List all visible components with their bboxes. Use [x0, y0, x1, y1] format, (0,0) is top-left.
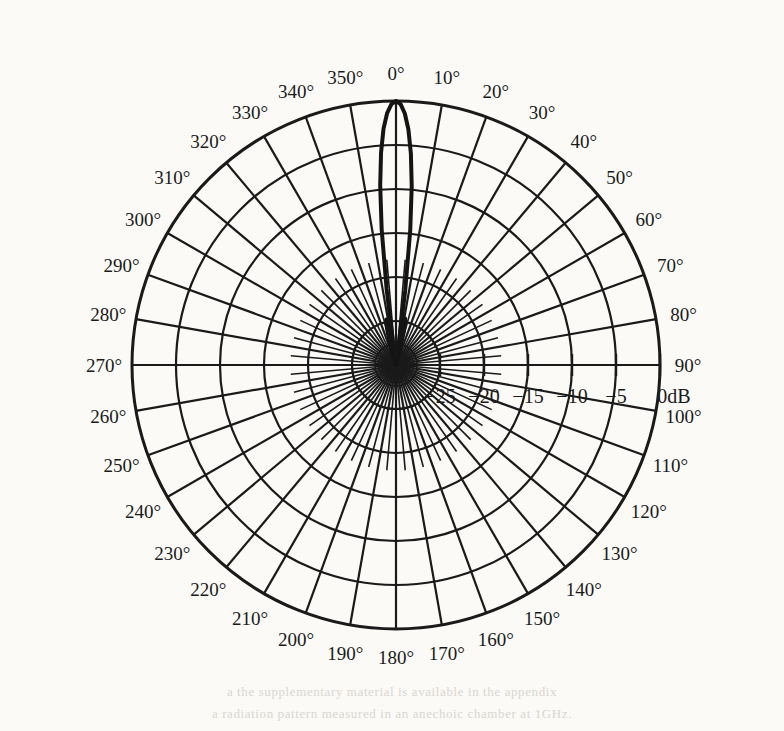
angle-tick-label-100: 100° [666, 406, 702, 425]
angle-tick-label-0: 0° [387, 64, 404, 83]
angle-tick-label-280: 280° [90, 305, 126, 324]
polar-chart-figure: 0°10°20°30°40°50°60°70°80°90°100°110°120… [0, 0, 784, 731]
angle-tick-label-160: 160° [478, 630, 514, 649]
angle-tick-label-260: 260° [90, 406, 126, 425]
angle-tick-label-220: 220° [190, 579, 226, 598]
radial-db-label--25: −25 [424, 386, 455, 406]
angle-tick-label-210: 210° [232, 608, 268, 627]
radial-db-label--10: −10 [556, 386, 587, 406]
angle-tick-label-330: 330° [232, 103, 268, 122]
angle-tick-label-60: 60° [636, 210, 663, 229]
angle-tick-label-110: 110° [653, 455, 688, 474]
angle-tick-label-170: 170° [429, 643, 465, 662]
angle-tick-label-300: 300° [125, 210, 161, 229]
angle-tick-label-200: 200° [278, 630, 314, 649]
angle-tick-label-140: 140° [566, 579, 602, 598]
angle-tick-label-30: 30° [529, 103, 556, 122]
radial-db-label-0: 0dB [657, 386, 690, 406]
angle-tick-label-50: 50° [606, 168, 633, 187]
bleed-through-text-line2: a radiation pattern measured in an anech… [0, 706, 784, 722]
angle-tick-label-350: 350° [327, 68, 363, 87]
angle-tick-label-90: 90° [675, 356, 702, 375]
angle-tick-label-320: 320° [190, 132, 226, 151]
radial-db-label--20: −20 [468, 386, 499, 406]
angle-tick-label-240: 240° [125, 502, 161, 521]
radial-db-label--5: −5 [605, 386, 626, 406]
angle-tick-label-80: 80° [670, 305, 697, 324]
angle-tick-label-20: 20° [483, 81, 510, 100]
angle-tick-label-230: 230° [154, 543, 190, 562]
angle-tick-label-10: 10° [433, 68, 460, 87]
angle-tick-label-130: 130° [602, 543, 638, 562]
angle-tick-label-270: 270° [86, 356, 122, 375]
angle-tick-label-250: 250° [104, 455, 140, 474]
angle-tick-label-310: 310° [154, 168, 190, 187]
bleed-through-text-line1: a the supplementary material is availabl… [0, 684, 784, 700]
angle-tick-label-40: 40° [570, 132, 597, 151]
angle-tick-label-190: 190° [327, 643, 363, 662]
angle-tick-label-340: 340° [278, 81, 314, 100]
radial-db-label--15: −15 [512, 386, 543, 406]
angle-tick-label-180: 180° [378, 648, 414, 667]
angle-tick-label-120: 120° [631, 502, 667, 521]
angle-tick-label-290: 290° [104, 256, 140, 275]
angle-tick-label-70: 70° [657, 256, 684, 275]
angle-tick-label-150: 150° [524, 608, 560, 627]
